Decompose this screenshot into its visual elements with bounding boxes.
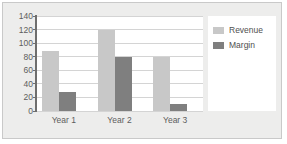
- y-axis-tick-label: 80: [7, 53, 33, 61]
- y-axis-tick-label: 0: [7, 107, 33, 115]
- bar-margin-year-3[interactable]: [170, 104, 187, 111]
- y-axis-tick-label: 20: [7, 93, 33, 101]
- y-axis-tick-label: 100: [7, 39, 33, 47]
- x-axis-category-labels: Year 1Year 2Year 3: [36, 115, 203, 129]
- legend-swatch-icon: [213, 27, 224, 34]
- plot-region: [36, 16, 203, 111]
- chart-frame: 020406080100120140 Year 1Year 2Year 3 Re…: [2, 2, 282, 139]
- x-axis-label-year-2: Year 2: [92, 115, 148, 125]
- bar-revenue-year-2[interactable]: [98, 30, 115, 111]
- legend-swatch-icon: [213, 42, 224, 49]
- legend-label: Revenue: [229, 26, 263, 35]
- y-axis-tick-label: 120: [7, 26, 33, 34]
- legend-item-revenue[interactable]: Revenue: [213, 25, 263, 35]
- bar-group: [147, 16, 203, 111]
- y-axis-tick-label: 40: [7, 80, 33, 88]
- y-axis-tick-label: 60: [7, 66, 33, 74]
- tick-mark: [33, 29, 36, 30]
- tick-mark: [33, 70, 36, 71]
- y-axis-tick-labels: 020406080100120140: [6, 16, 33, 111]
- bar-group: [36, 16, 92, 111]
- y-axis-tick-label: 140: [7, 12, 33, 20]
- bar-margin-year-2[interactable]: [115, 57, 132, 111]
- tick-mark: [33, 111, 36, 112]
- tick-mark: [33, 83, 36, 84]
- bars-layer: [36, 16, 203, 111]
- bar-revenue-year-3[interactable]: [153, 57, 170, 111]
- tick-mark: [33, 97, 36, 98]
- bar-group: [92, 16, 148, 111]
- plot-area: [36, 16, 203, 111]
- x-axis-label-year-3: Year 3: [147, 115, 203, 125]
- tick-mark: [33, 16, 36, 17]
- x-axis-label-year-1: Year 1: [36, 115, 92, 125]
- tick-mark: [33, 56, 36, 57]
- bar-margin-year-1[interactable]: [59, 92, 76, 111]
- legend-label: Margin: [229, 41, 255, 50]
- legend-item-margin[interactable]: Margin: [213, 40, 255, 50]
- tick-mark: [33, 43, 36, 44]
- bar-revenue-year-1[interactable]: [42, 51, 59, 111]
- chart-legend: RevenueMargin: [208, 16, 276, 111]
